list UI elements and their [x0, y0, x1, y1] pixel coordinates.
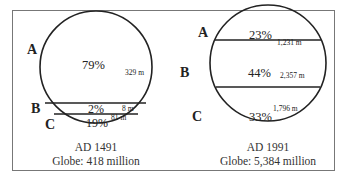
percent-b: 2%: [88, 102, 104, 117]
letter-c: C: [45, 117, 55, 133]
count-b: 8 m: [122, 104, 133, 113]
letter-b: B: [180, 65, 189, 81]
caption-1991: AD 1991 Globe: 5,384 million: [205, 140, 331, 168]
percent-a: 23%: [249, 28, 272, 43]
year-label: AD 1491: [40, 140, 152, 154]
percent-a: 79%: [82, 58, 105, 73]
letter-c: C: [192, 109, 202, 125]
count-a: 1,231 m: [277, 38, 302, 47]
letter-a: A: [27, 42, 37, 58]
letter-b: B: [31, 101, 40, 117]
year-label: AD 1991: [205, 140, 331, 154]
percent-c: 33%: [249, 110, 272, 125]
globe-total: Globe: 418 million: [40, 154, 152, 168]
percent-b: 44%: [248, 66, 271, 81]
count-a: 329 m: [125, 68, 144, 77]
percent-c: 19%: [86, 116, 108, 131]
letter-a: A: [198, 25, 208, 41]
globe-total: Globe: 5,384 million: [205, 154, 331, 168]
count-b: 2,357 m: [280, 71, 305, 80]
count-c: 1,796 m: [273, 104, 298, 113]
caption-1491: AD 1491 Globe: 418 million: [40, 140, 152, 168]
count-c: 81 m: [111, 113, 126, 122]
globe-1991: [210, 5, 326, 121]
